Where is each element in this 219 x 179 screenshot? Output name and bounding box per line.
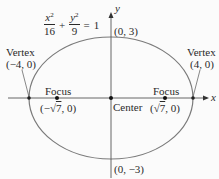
ellipse-diagram: x2 16 + y2 9 = 1 y x (0, 3) (0, −3) Cent… bbox=[0, 0, 219, 179]
left-vertex-point bbox=[27, 96, 31, 100]
top-point-label: (0, 3) bbox=[114, 26, 138, 37]
center-label: Center bbox=[113, 102, 142, 113]
left-vertex-leader bbox=[22, 70, 29, 97]
right-vertex-point bbox=[191, 96, 195, 100]
y-exponent: 2 bbox=[75, 11, 79, 19]
right-vertex-leader bbox=[193, 70, 200, 97]
left-vertex-title: Vertex bbox=[6, 47, 35, 58]
y-axis-arrow-icon bbox=[109, 12, 114, 18]
left-focus-title: Focus bbox=[45, 86, 71, 97]
left-vertex-coords: (−4, 0) bbox=[6, 59, 36, 70]
y-denominator: 9 bbox=[72, 25, 78, 37]
bottom-point-label: (0, −3) bbox=[114, 164, 144, 175]
ellipse-equation: x2 16 + y2 9 = 1 bbox=[44, 12, 99, 37]
right-focus-title: Focus bbox=[153, 86, 179, 97]
x-denominator: 16 bbox=[44, 25, 55, 37]
equals-sign: = bbox=[83, 19, 91, 31]
x-axis-label: x bbox=[211, 92, 216, 103]
right-vertex-title: Vertex bbox=[187, 47, 216, 58]
y-axis-label: y bbox=[115, 3, 120, 14]
equation-rhs: 1 bbox=[94, 19, 100, 31]
center-point bbox=[109, 96, 113, 100]
right-focus-coords: (√7, 0) bbox=[150, 103, 180, 114]
x-axis-arrow-icon bbox=[203, 96, 209, 101]
fraction-x: x2 16 bbox=[44, 12, 55, 37]
right-vertex-coords: (4, 0) bbox=[190, 59, 214, 70]
diagram-canvas bbox=[0, 0, 219, 179]
left-focus-coords: (−√7, 0) bbox=[40, 103, 76, 114]
plus-sign: + bbox=[58, 19, 66, 31]
x-exponent: 2 bbox=[50, 11, 54, 19]
fraction-y: y2 9 bbox=[69, 12, 79, 37]
